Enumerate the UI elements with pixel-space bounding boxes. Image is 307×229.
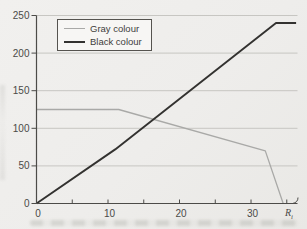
gray-line-swatch bbox=[64, 28, 85, 30]
y-tick-label-200: 200 bbox=[13, 48, 30, 59]
black-line-swatch bbox=[64, 41, 85, 43]
y-tick-label-100: 100 bbox=[13, 123, 30, 134]
x-axis-end-curl bbox=[293, 198, 299, 204]
legend-label-gray: Gray colour bbox=[90, 24, 139, 34]
legend-item-black-colour: Black colour bbox=[58, 37, 151, 47]
x-tick-label-20: 20 bbox=[175, 208, 187, 219]
y-tick-label-250: 250 bbox=[13, 10, 30, 21]
y-tick-label-0: 0 bbox=[24, 198, 30, 209]
line-chart-canvas: 0501001502002500102030 bbox=[0, 0, 307, 229]
x-axis-label-subscript: i bbox=[291, 213, 293, 221]
x-tick-label-30: 30 bbox=[247, 208, 259, 219]
series-line-gray-colour bbox=[37, 110, 284, 204]
scanned-chart-figure: 0501001502002500102030 Gray colour Black… bbox=[0, 0, 307, 229]
x-axis-label: Ri bbox=[285, 207, 293, 221]
x-tick-label-0: 0 bbox=[35, 208, 41, 219]
legend-item-gray-colour: Gray colour bbox=[58, 24, 151, 34]
y-tick-label-150: 150 bbox=[13, 85, 30, 96]
y-tick-label-50: 50 bbox=[18, 160, 30, 171]
x-tick-label-10: 10 bbox=[104, 208, 116, 219]
legend-label-black: Black colour bbox=[90, 37, 142, 47]
chart-legend: Gray colour Black colour bbox=[57, 19, 152, 51]
